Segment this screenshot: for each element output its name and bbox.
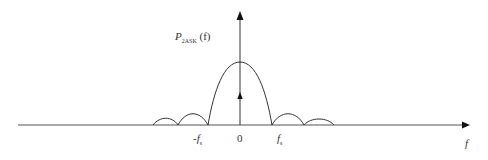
side-lobe-left-1 (178, 114, 208, 125)
y-axis-arrow-icon (237, 11, 244, 20)
tick-label-zero: 0 (237, 132, 243, 144)
impulse-arrow-icon (237, 92, 242, 99)
tick-label-neg-fs: -fs (193, 132, 202, 146)
x-axis-label: f (465, 137, 468, 149)
side-lobe-right-1 (272, 114, 304, 125)
spectrum-diagram (0, 0, 488, 160)
tick-label-fs: fs (277, 132, 282, 146)
side-lobe-left-2 (153, 118, 178, 125)
side-lobe-right-2 (304, 119, 334, 125)
y-axis-label: P2ASK (f) (175, 30, 211, 44)
x-axis-arrow-icon (462, 122, 470, 129)
